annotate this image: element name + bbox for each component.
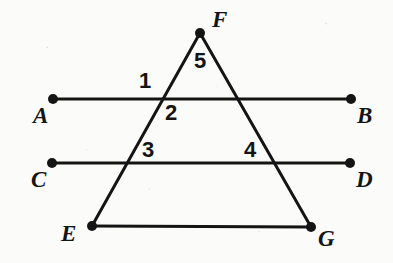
point-label-d: D [356, 168, 373, 191]
diagram-canvas [0, 0, 393, 263]
point-label-e: E [61, 222, 76, 245]
vertex-dot-f [195, 28, 205, 38]
angle-5-label: 5 [194, 50, 206, 72]
angle-1-label: 1 [139, 70, 151, 92]
angle-3-label: 3 [142, 139, 154, 161]
vertex-dot-c [47, 158, 57, 168]
side-FG [200, 33, 311, 227]
angle-4-label: 4 [244, 139, 256, 161]
side-EG [92, 226, 311, 227]
vertex-dot-e [87, 221, 97, 231]
angle-2-label: 2 [165, 102, 177, 124]
point-label-f: F [212, 8, 227, 31]
geometry-figure: FABCDEG 12345 [0, 0, 393, 263]
vertex-dot-g [306, 222, 316, 232]
side-FE [92, 33, 200, 226]
vertex-dot-b [346, 94, 356, 104]
vertex-dot-a [48, 94, 58, 104]
point-label-b: B [357, 104, 372, 127]
point-label-g: G [318, 227, 335, 250]
vertex-dot-d [345, 158, 355, 168]
point-label-a: A [33, 104, 48, 127]
point-label-c: C [31, 168, 46, 191]
